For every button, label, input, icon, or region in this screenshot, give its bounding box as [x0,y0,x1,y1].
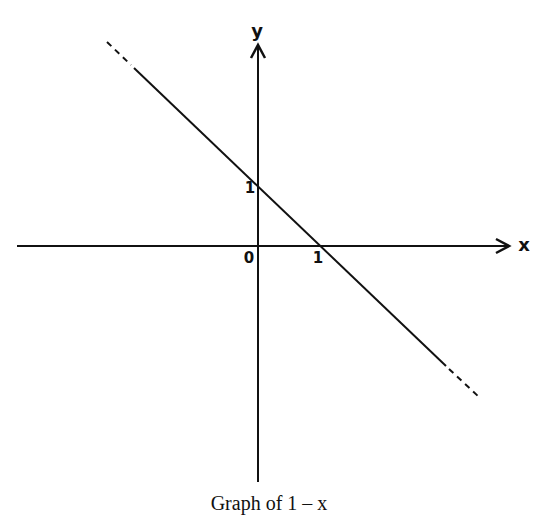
y-axis-label: y [251,20,263,41]
function-line-dashed-upper [107,42,131,65]
origin-label: 0 [244,249,254,267]
y-intercept-label: 1 [245,179,255,197]
figure-caption: Graph of 1 – x [0,492,538,515]
function-line-dashed-lower [449,369,479,397]
x-intercept-label: 1 [313,249,323,267]
x-axis-label: x [518,234,530,255]
function-line [134,68,446,366]
